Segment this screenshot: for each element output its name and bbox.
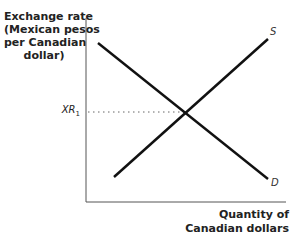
xr-subscript: 1 (76, 110, 80, 118)
plot-area (0, 0, 301, 238)
x-axis-label: Quantity of Canadian dollars (185, 208, 289, 236)
supply-curve-label: S (270, 26, 276, 37)
equilibrium-exchange-rate-label: XR1 (50, 104, 80, 118)
supply-curve (114, 39, 268, 177)
xr-label: XR (62, 104, 76, 115)
exchange-rate-diagram: Exchange rate (Mexican pesos per Canadia… (0, 0, 301, 238)
demand-curve-label: D (271, 177, 279, 188)
x-axis-label-line: Canadian dollars (185, 222, 289, 236)
x-axis-label-line: Quantity of (185, 208, 289, 222)
